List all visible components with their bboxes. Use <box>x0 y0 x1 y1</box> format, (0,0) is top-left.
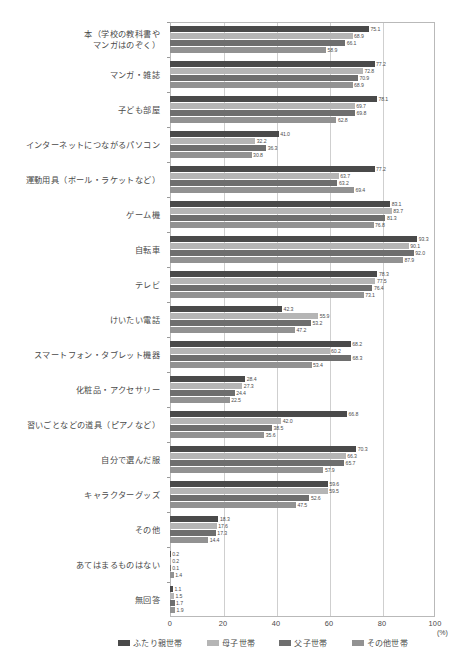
legend-item[interactable]: 父子世帯 <box>279 637 327 648</box>
bar-group: 66.842.038.535.6 <box>170 407 435 442</box>
bar-line: 78.3 <box>170 271 435 277</box>
bar <box>170 75 358 81</box>
bar-line: 57.9 <box>170 467 435 473</box>
bar <box>170 222 374 228</box>
bar-value-label: 41.0 <box>279 131 290 137</box>
bar-line: 70.9 <box>170 75 435 81</box>
bar-value-label: 73.1 <box>364 292 375 298</box>
category-label: インターネットにつながるパソコン <box>26 139 160 150</box>
bar-value-label: 57.9 <box>323 467 334 473</box>
bar-line: 52.6 <box>170 495 435 501</box>
legend-item[interactable]: ふたり親世帯 <box>118 637 183 648</box>
bar <box>170 68 363 74</box>
bar-line: 77.5 <box>170 278 435 284</box>
bar-value-label: 68.9 <box>353 33 364 39</box>
bar <box>170 453 346 459</box>
bar <box>170 383 242 389</box>
bar <box>170 152 252 158</box>
bar-line: 53.4 <box>170 362 435 368</box>
bar-value-label: 1.1 <box>173 586 181 592</box>
legend-swatch-icon <box>118 640 130 646</box>
bar-value-label: 0.2 <box>171 558 179 564</box>
bar-value-label: 66.3 <box>346 453 357 459</box>
bar-line: 0.2 <box>170 558 435 564</box>
bar-line: 17.3 <box>170 530 435 536</box>
bar-line: 27.3 <box>170 383 435 389</box>
bars: 1.11.51.71.9 <box>170 582 435 617</box>
bar-value-label: 63.7 <box>339 173 350 179</box>
bar-line: 62.8 <box>170 117 435 123</box>
bar <box>170 481 328 487</box>
bars: 75.168.966.158.9 <box>170 22 435 57</box>
legend-swatch-icon <box>207 640 219 646</box>
bar-line: 60.2 <box>170 348 435 354</box>
x-tick-label: 100 <box>429 619 442 628</box>
legend-swatch-icon <box>352 640 364 646</box>
chart-legend: ふたり親世帯母子世帯父子世帯その他世帯 <box>118 637 408 648</box>
bar-value-label: 90.1 <box>409 243 420 249</box>
bar-value-label: 68.9 <box>353 82 364 88</box>
bar-value-label: 77.5 <box>375 278 386 284</box>
bar-value-label: 63.2 <box>337 180 348 186</box>
bar <box>170 362 312 368</box>
bar <box>170 446 356 452</box>
bar-value-label: 36.3 <box>266 145 277 151</box>
bar-line: 0.2 <box>170 551 435 557</box>
bar <box>170 523 217 529</box>
bar-value-label: 59.5 <box>328 488 339 494</box>
bar-line: 1.7 <box>170 600 435 606</box>
bar <box>170 411 347 417</box>
bar <box>170 117 336 123</box>
bar-value-label: 66.8 <box>347 411 358 417</box>
bar-value-label: 59.6 <box>328 481 339 487</box>
bar-line: 77.2 <box>170 166 435 172</box>
bar-group: 77.263.763.269.4 <box>170 162 435 197</box>
bar-line: 81.3 <box>170 215 435 221</box>
bar-line: 75.1 <box>170 26 435 32</box>
bar-line: 90.1 <box>170 243 435 249</box>
bars: 28.427.324.422.5 <box>170 372 435 407</box>
bar-group: 0.20.20.11.4 <box>170 547 435 582</box>
bar-line: 76.4 <box>170 285 435 291</box>
bars: 0.20.20.11.4 <box>170 547 435 582</box>
bar-value-label: 0.2 <box>171 551 179 557</box>
bar <box>170 26 369 32</box>
bar-value-label: 81.3 <box>385 215 396 221</box>
legend-item[interactable]: 母子世帯 <box>207 637 255 648</box>
bar-group: 18.317.617.314.4 <box>170 512 435 547</box>
bar-line: 42.0 <box>170 418 435 424</box>
bar-value-label: 1.4 <box>174 572 182 578</box>
legend-item[interactable]: その他世帯 <box>352 637 409 648</box>
bar-group: 42.355.953.247.2 <box>170 302 435 337</box>
bar <box>170 467 323 473</box>
bar <box>170 138 255 144</box>
bar <box>170 215 385 221</box>
bar-line: 63.2 <box>170 180 435 186</box>
bar-group: 1.11.51.71.9 <box>170 582 435 617</box>
bar-value-label: 35.6 <box>264 432 275 438</box>
bar-line: 47.2 <box>170 327 435 333</box>
bar-group: 78.377.576.473.1 <box>170 267 435 302</box>
bar <box>170 201 390 207</box>
bar-value-label: 77.2 <box>375 61 386 67</box>
bar-value-label: 14.4 <box>208 537 219 543</box>
bar-value-label: 69.8 <box>355 110 366 116</box>
bar-line: 36.3 <box>170 145 435 151</box>
bar-value-label: 70.3 <box>356 446 367 452</box>
bar <box>170 376 245 382</box>
bar <box>170 208 392 214</box>
value-axis-labels: 020406080100 <box>170 619 435 635</box>
bar-line: 73.1 <box>170 292 435 298</box>
bar-value-label: 47.5 <box>296 502 307 508</box>
category-label: 自分で選んだ服 <box>101 454 160 465</box>
bar <box>170 502 296 508</box>
bar <box>170 320 311 326</box>
bar-value-label: 83.1 <box>390 201 401 207</box>
bar-value-label: 17.6 <box>217 523 228 529</box>
bar-value-label: 69.7 <box>355 103 366 109</box>
bar-line: 66.8 <box>170 411 435 417</box>
x-tick-label: 80 <box>378 619 387 628</box>
bar <box>170 516 218 522</box>
bar-line: 1.5 <box>170 593 435 599</box>
category-axis-labels: 本（学校の教科書や マンガはのぞく）マンガ・雑誌子ども部屋インターネットにつなが… <box>0 22 166 617</box>
